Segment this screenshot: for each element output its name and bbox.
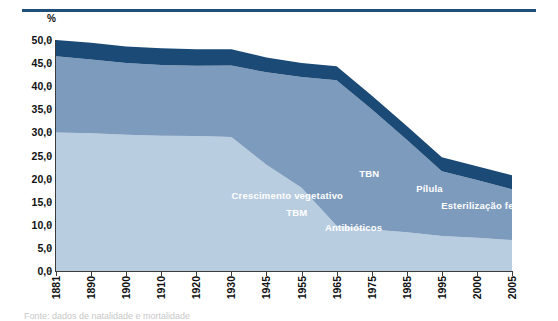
stacked-area-svg — [56, 40, 512, 271]
series-annotation-label: Crescimento vegetativo — [232, 190, 344, 201]
x-axis-tick-label: 2005 — [506, 276, 518, 299]
caption-fragment: Fonte: dados de natalidade e mortalidade — [24, 311, 444, 320]
y-axis-tick-mark — [48, 224, 52, 225]
series-annotation-label: Antibióticos — [325, 222, 382, 233]
x-axis-tick-label: 1890 — [85, 276, 97, 299]
y-axis-line — [55, 40, 56, 272]
series-annotation-label: Pílula — [416, 183, 443, 194]
y-axis-tick-group: 0,05,010,015,020,025,030,035,040,045,050… — [8, 0, 52, 321]
y-axis-tick-mark — [48, 40, 52, 41]
chart-plot-area — [56, 40, 512, 271]
x-axis-tick-label: 2000 — [471, 276, 483, 299]
figure-container: % 0,05,010,015,020,025,030,035,040,045,0… — [0, 0, 558, 321]
series-annotation-label: TBM — [286, 207, 307, 218]
x-axis-tick-label: 1900 — [120, 276, 132, 299]
x-axis-tick-label: 1910 — [155, 276, 167, 299]
y-axis-tick-mark — [48, 132, 52, 133]
x-axis-tick-label: 1985 — [401, 276, 413, 299]
x-axis-tick-label: 1965 — [331, 276, 343, 299]
x-axis-tick-label: 1975 — [366, 276, 378, 299]
x-axis-tick-label: 1995 — [436, 276, 448, 299]
y-axis-tick-mark — [48, 201, 52, 202]
y-axis-tick-mark — [48, 178, 52, 179]
y-axis-tick-mark — [48, 155, 52, 156]
series-annotation-label: Esterilização feminina — [441, 200, 545, 211]
y-axis-tick-mark — [48, 109, 52, 110]
x-axis-line — [55, 271, 513, 272]
top-rule-divider — [22, 9, 536, 12]
y-axis-tick-mark — [48, 247, 52, 248]
y-axis-tick-mark — [48, 86, 52, 87]
x-axis-tick-label: 1920 — [190, 276, 202, 299]
x-axis-tick-label: 1881 — [50, 276, 62, 299]
y-axis-tick-mark — [48, 271, 52, 272]
series-annotation-label: TBN — [359, 168, 379, 179]
y-axis-tick-mark — [48, 63, 52, 64]
x-axis-tick-label: 1955 — [296, 276, 308, 299]
x-axis-tick-label: 1945 — [260, 276, 272, 299]
x-axis-tick-label: 1930 — [225, 276, 237, 299]
